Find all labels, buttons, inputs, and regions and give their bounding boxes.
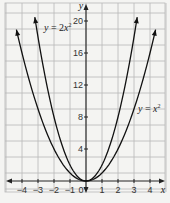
x-axis-arrow-icon xyxy=(159,179,165,184)
y-tick-label: 4 xyxy=(78,144,83,154)
y-tick-label: 8 xyxy=(78,112,83,122)
y-tick-label: 16 xyxy=(73,48,83,58)
label-y-2x2: y = 2x2 xyxy=(43,22,72,33)
x-tick-label: −2 xyxy=(49,185,59,195)
x-tick-label: −1 xyxy=(65,185,75,195)
curve-arrow-icon xyxy=(134,17,139,23)
label-y-x2: y = x2 xyxy=(137,103,161,114)
y-axis-arrow-icon xyxy=(84,4,89,10)
x-tick-label: 1 xyxy=(99,185,104,195)
x-tick-label: −3 xyxy=(33,185,43,195)
x-axis-arrow-left-icon xyxy=(6,179,12,184)
x-axis-label: x xyxy=(160,184,166,195)
y-tick-label: 12 xyxy=(73,80,83,90)
x-tick-label: −4 xyxy=(17,185,27,195)
x-tick-label: 3 xyxy=(131,185,136,195)
parabola-chart: −4−3−2−10123448121620xy y = 2x2y = x2 xyxy=(0,0,170,203)
x-tick-label: 2 xyxy=(115,185,120,195)
y-axis-label: y xyxy=(78,0,84,11)
y-tick-label: 20 xyxy=(73,16,83,26)
x-tick-label: 4 xyxy=(147,185,152,195)
curve-arrow-icon xyxy=(33,17,38,23)
axes xyxy=(6,4,165,193)
x-tick-label: 0 xyxy=(78,185,83,195)
